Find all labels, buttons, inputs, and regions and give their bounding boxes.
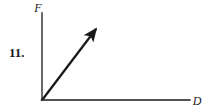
x-axis-label-D: D bbox=[192, 94, 202, 108]
data-line-arrow bbox=[43, 29, 97, 100]
figure-container: 11. F D bbox=[0, 0, 207, 112]
y-axis-label-F: F bbox=[33, 1, 42, 15]
graph-plot: F D bbox=[0, 0, 207, 112]
